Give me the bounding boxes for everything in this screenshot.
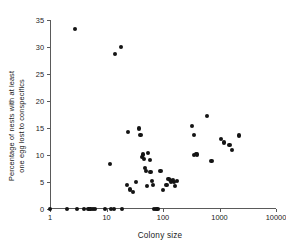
data-point <box>151 183 155 187</box>
data-point <box>227 143 231 147</box>
data-point <box>138 133 142 137</box>
y-axis-line <box>50 20 51 209</box>
y-tick-mark <box>47 155 50 156</box>
data-point <box>161 188 165 192</box>
data-point <box>209 159 213 163</box>
data-point <box>222 140 226 144</box>
data-point <box>192 133 196 137</box>
x-tick-mark <box>276 209 277 212</box>
data-point <box>137 126 141 130</box>
data-point <box>120 207 124 211</box>
y-tick-label: 35 <box>30 16 44 25</box>
data-point <box>190 124 194 128</box>
data-point <box>145 184 149 188</box>
x-tick-label: 1 <box>48 213 52 222</box>
y-axis-title: Percentage of nests with at least one eg… <box>0 0 34 252</box>
y-tick-label: 5 <box>30 178 44 187</box>
data-point <box>173 184 177 188</box>
x-tick-label: 1000 <box>211 213 227 222</box>
data-point <box>195 152 199 156</box>
plot-area: 05101520253035 110100100010000 <box>50 20 276 209</box>
data-point <box>112 207 116 211</box>
x-axis-title: Colony size <box>40 231 280 240</box>
y-tick-mark <box>47 47 50 48</box>
scatter-plot-figure: Percentage of nests with at least one eg… <box>0 0 286 252</box>
data-point <box>146 151 150 155</box>
x-tick-mark <box>163 209 164 212</box>
y-axis-title-text: Percentage of nests with at least one eg… <box>7 71 26 181</box>
data-point <box>164 183 168 187</box>
data-point <box>134 180 138 184</box>
y-tick-label: 20 <box>30 97 44 106</box>
x-tick-label: 10 <box>102 213 110 222</box>
data-point <box>142 157 146 161</box>
data-point <box>75 207 79 211</box>
data-point <box>175 179 179 183</box>
data-point <box>113 52 117 56</box>
data-point <box>158 169 162 173</box>
data-point <box>48 207 52 211</box>
data-point <box>131 190 135 194</box>
data-point <box>93 207 97 211</box>
y-tick-label: 15 <box>30 124 44 133</box>
x-tick-label: 10000 <box>266 213 286 222</box>
y-tick-label: 30 <box>30 43 44 52</box>
y-tick-label: 0 <box>30 205 44 214</box>
data-point <box>205 114 209 118</box>
data-point <box>148 170 152 174</box>
data-point <box>155 207 159 211</box>
y-tick-label: 10 <box>30 151 44 160</box>
data-point <box>73 27 77 31</box>
x-tick-label: 100 <box>157 213 169 222</box>
data-point <box>141 152 145 156</box>
y-tick-label: 25 <box>30 70 44 79</box>
data-point <box>148 158 152 162</box>
x-tick-mark <box>220 209 221 212</box>
data-point <box>230 148 234 152</box>
data-point <box>65 207 69 211</box>
y-tick-mark <box>47 128 50 129</box>
y-tick-mark <box>47 74 50 75</box>
data-point <box>126 130 130 134</box>
data-point <box>108 162 112 166</box>
y-tick-mark <box>47 20 50 21</box>
y-tick-mark <box>47 182 50 183</box>
data-point <box>237 133 241 137</box>
data-point <box>119 45 123 49</box>
y-tick-mark <box>47 101 50 102</box>
